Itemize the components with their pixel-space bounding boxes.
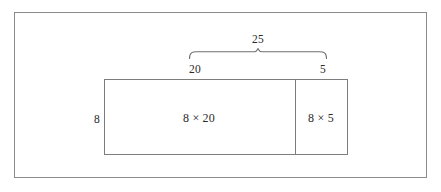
area-model-figure: 25 20 5 8 8 × 20 8 × 5 [0, 0, 441, 192]
segment-divider [295, 79, 296, 155]
right-segment-area-label: 8 × 5 [308, 112, 334, 125]
rectangle-height-label: 8 [94, 113, 100, 126]
left-segment-width-label: 20 [189, 63, 201, 76]
right-segment-width-label: 5 [320, 63, 326, 76]
left-segment-area-label: 8 × 20 [183, 112, 215, 125]
total-width-label: 25 [252, 33, 264, 46]
